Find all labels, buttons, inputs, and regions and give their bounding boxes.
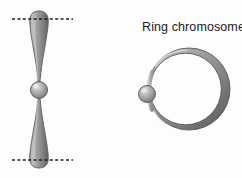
ring-centromere-specular-highlight	[141, 88, 147, 93]
chromosome-lower-arm	[30, 94, 49, 168]
ring-centromere-sphere	[139, 86, 156, 103]
centromere-sphere	[31, 82, 48, 99]
centromere-specular-highlight	[33, 84, 39, 89]
ring-chromosome	[139, 48, 231, 130]
chromosome-upper-arm	[30, 11, 49, 85]
chromosome-figure: Ring chromosome	[0, 0, 242, 178]
ring-chromosome-label: Ring chromosome	[142, 20, 242, 34]
linear-chromosome	[30, 11, 49, 168]
